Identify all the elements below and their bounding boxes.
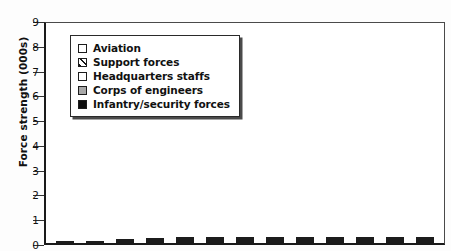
tick-label: 2 <box>32 190 39 201</box>
legend-swatch-hatch <box>78 58 87 67</box>
stacked-bar[interactable] <box>236 237 255 243</box>
legend-label: Headquarters staffs <box>93 71 210 82</box>
tick-label: 0 <box>32 240 39 251</box>
bar-slot <box>260 23 290 243</box>
y-axis-title: Force strength (000s) <box>17 27 29 177</box>
tick-label: 8 <box>32 42 39 53</box>
bar-segment <box>86 241 105 243</box>
legend-label: Infantry/security forces <box>93 99 230 110</box>
bar-segment <box>206 241 225 243</box>
bar-segment <box>356 241 375 243</box>
stacked-bar[interactable] <box>116 239 135 243</box>
tick-label: 4 <box>32 141 39 152</box>
stacked-bar[interactable] <box>206 237 225 243</box>
tick-label: 7 <box>32 66 39 77</box>
stacked-bar[interactable] <box>356 237 375 243</box>
legend-item[interactable]: Headquarters staffs <box>78 69 230 83</box>
legend-label: Support forces <box>93 57 179 68</box>
bar-slot <box>320 23 350 243</box>
bar-segment <box>176 241 195 243</box>
tick-label: 3 <box>32 165 39 176</box>
legend-item[interactable]: Support forces <box>78 55 230 69</box>
chart-figure: Force strength (000s) 0123456789 Aviatio… <box>0 0 451 251</box>
bar-segment <box>266 241 285 243</box>
stacked-bar[interactable] <box>146 238 165 243</box>
bar-segment <box>386 241 405 243</box>
bar-slot <box>410 23 440 243</box>
bar-segment <box>326 241 345 243</box>
stacked-bar[interactable] <box>86 241 105 243</box>
stacked-bar[interactable] <box>386 237 405 243</box>
bar-segment <box>416 241 435 243</box>
chart-legend: AviationSupport forcesHeadquarters staff… <box>70 35 240 117</box>
legend-item[interactable]: Infantry/security forces <box>78 97 230 111</box>
stacked-bar[interactable] <box>326 237 345 243</box>
bar-slot <box>350 23 380 243</box>
tick-label: 9 <box>32 17 39 28</box>
legend-swatch-white <box>78 72 87 81</box>
bar-segment <box>296 241 315 243</box>
stacked-bar[interactable] <box>416 237 435 243</box>
bar-segment <box>116 241 135 243</box>
legend-swatch-white <box>78 44 87 53</box>
tick-label: 1 <box>32 215 39 226</box>
legend-item[interactable]: Aviation <box>78 41 230 55</box>
legend-label: Aviation <box>93 43 141 54</box>
stacked-bar[interactable] <box>56 241 75 243</box>
bar-segment <box>146 241 165 243</box>
bar-slot <box>290 23 320 243</box>
legend-swatch-gray <box>78 86 87 95</box>
legend-label: Corps of engineers <box>93 85 203 96</box>
bar-segment <box>236 241 255 243</box>
legend-swatch-black <box>78 100 87 109</box>
stacked-bar[interactable] <box>266 237 285 243</box>
stacked-bar[interactable] <box>176 237 195 243</box>
bar-slot <box>380 23 410 243</box>
tick-label: 6 <box>32 91 39 102</box>
stacked-bar[interactable] <box>296 237 315 243</box>
bar-segment <box>56 241 75 243</box>
legend-item[interactable]: Corps of engineers <box>78 83 230 97</box>
tick-label: 5 <box>32 116 39 127</box>
